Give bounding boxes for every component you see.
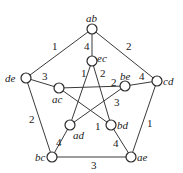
node-label: be — [120, 70, 131, 82]
edge-weight-label: 1 — [147, 117, 153, 129]
node-be — [120, 81, 130, 91]
edge-weight-label: 3 — [114, 96, 120, 108]
edge-weight-label: 3 — [42, 70, 48, 82]
edge-weight-label: 4 — [113, 137, 119, 149]
edge-ac-bd — [59, 88, 111, 125]
edge-weight-label: 2 — [100, 67, 106, 79]
node-ab — [87, 24, 97, 34]
node-label: ab — [86, 12, 98, 24]
node-bc — [47, 152, 57, 162]
node-cd — [152, 76, 162, 86]
edge-cd-ae — [131, 81, 157, 157]
node-label: ad — [73, 129, 85, 141]
node-ac — [54, 83, 64, 93]
edge-weight-label: 4 — [139, 70, 145, 82]
graph-diagram: 124324134412213abecdeacbecdadbdbcae — [0, 0, 183, 173]
edge-weight-label: 1 — [81, 67, 87, 79]
edge-weight-label: 4 — [84, 40, 90, 52]
edge-weight-label: 3 — [91, 159, 97, 171]
edge-weight-label: 2 — [111, 76, 117, 88]
node-label: cd — [163, 75, 174, 87]
node-bd — [106, 120, 116, 130]
edge-weight-label: 4 — [56, 136, 62, 148]
node-label: bd — [117, 119, 129, 131]
node-label: ac — [52, 93, 63, 105]
node-de — [21, 73, 31, 83]
edge-weight-label: 2 — [29, 113, 35, 125]
node-label: de — [5, 72, 16, 84]
node-label: ec — [97, 52, 107, 64]
node-label: ae — [137, 151, 148, 163]
node-ae — [126, 152, 136, 162]
node-ec — [87, 56, 97, 66]
edge-weight-label: 1 — [95, 120, 101, 132]
edge-weight-label: 1 — [52, 40, 58, 52]
edge-weight-label: 2 — [126, 40, 132, 52]
node-label: bc — [35, 151, 46, 163]
